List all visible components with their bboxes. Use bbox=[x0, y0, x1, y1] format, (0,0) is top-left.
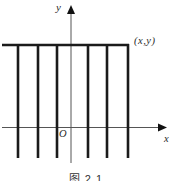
x-axis-label: x bbox=[164, 134, 169, 145]
x-axis-arrow-icon bbox=[158, 124, 167, 132]
coordinate-diagram bbox=[0, 0, 172, 181]
origin-label: O bbox=[59, 129, 67, 140]
figure-canvas: y (x,y) O x 图 2.1 bbox=[0, 0, 172, 181]
figure-caption: 图 2.1 bbox=[0, 173, 172, 181]
point-label: (x,y) bbox=[134, 36, 155, 47]
y-axis-arrow-icon bbox=[67, 5, 75, 14]
y-axis-label: y bbox=[56, 2, 61, 13]
